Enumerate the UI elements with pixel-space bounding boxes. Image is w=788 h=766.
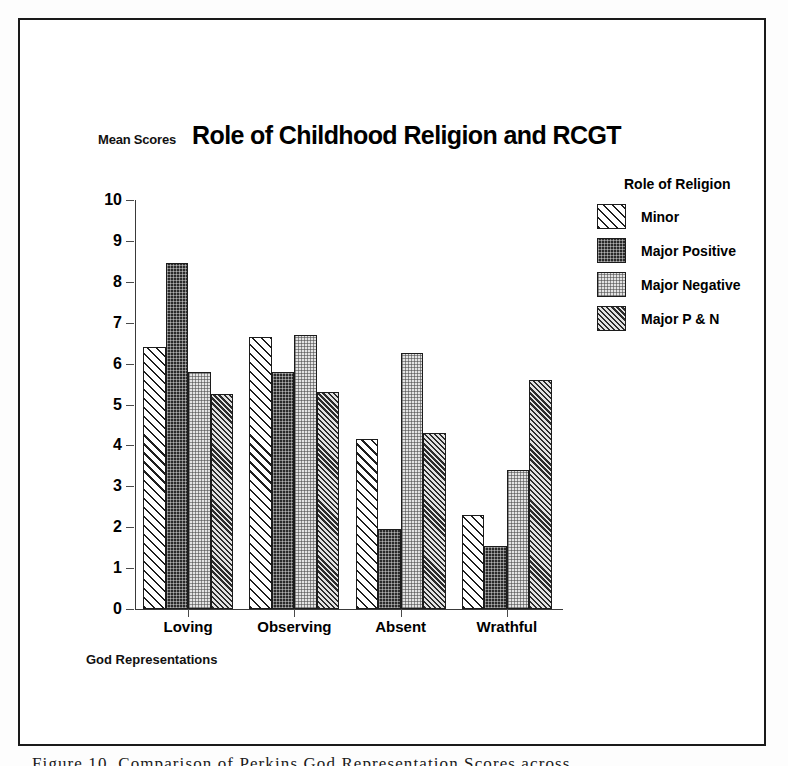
y-tick (126, 200, 134, 201)
x-category-label-loving: Loving (164, 618, 213, 635)
y-tick (126, 527, 134, 528)
x-category-label-wrathful: Wrathful (477, 618, 538, 635)
y-tick-label: 2 (92, 518, 122, 536)
chart-title: Role of Childhood Religion and RCGT (192, 121, 621, 150)
y-tick (126, 568, 134, 569)
figure-caption: Figure 10. Comparison of Perkins God Rep… (32, 754, 752, 766)
bar-absent-major-negative (401, 353, 424, 609)
y-tick-label: 7 (92, 314, 122, 332)
x-tick (401, 609, 402, 617)
y-tick (126, 405, 134, 406)
bar-observing-major-negative (294, 335, 317, 609)
legend: Role of Religion MinorMajor PositiveMajo… (597, 176, 787, 340)
y-tick-label: 5 (92, 396, 122, 414)
plot-area (135, 200, 560, 609)
legend-label: Major Negative (641, 277, 741, 293)
legend-item-minor: Minor (597, 204, 787, 229)
figure-page: Mean Scores Role of Childhood Religion a… (0, 0, 788, 766)
bar-loving-major-negative (188, 372, 211, 609)
legend-swatch-gray-diagonal-hatch (597, 306, 626, 331)
bar-observing-major-positive (272, 372, 295, 609)
legend-items: MinorMajor PositiveMajor NegativeMajor P… (597, 204, 787, 331)
legend-item-major-positive: Major Positive (597, 238, 787, 263)
bar-wrathful-major-p-n (529, 380, 552, 609)
y-tick (126, 445, 134, 446)
bar-wrathful-major-positive (484, 546, 507, 609)
y-tick-label: 4 (92, 436, 122, 454)
x-axis-caption: God Representations (86, 652, 217, 667)
bar-absent-minor (356, 439, 379, 609)
y-tick-label: 6 (92, 355, 122, 373)
x-category-label-absent: Absent (375, 618, 426, 635)
legend-item-major-negative: Major Negative (597, 272, 787, 297)
figure-frame: Mean Scores Role of Childhood Religion a… (18, 18, 766, 746)
y-axis-caption: Mean Scores (98, 132, 176, 147)
bar-observing-major-p-n (317, 392, 340, 609)
bar-observing-minor (249, 337, 272, 609)
y-tick-label: 8 (92, 273, 122, 291)
x-tick (507, 609, 508, 617)
legend-label: Major P & N (641, 311, 719, 327)
y-tick-label: 9 (92, 232, 122, 250)
legend-swatch-diagonal-hatch-white (597, 204, 626, 229)
y-tick-label: 1 (92, 559, 122, 577)
y-tick-label: 3 (92, 477, 122, 495)
y-tick (126, 241, 134, 242)
y-tick (126, 282, 134, 283)
y-tick (126, 323, 134, 324)
y-tick (126, 609, 134, 610)
y-tick (126, 364, 134, 365)
bar-wrathful-minor (462, 515, 485, 609)
x-tick (294, 609, 295, 617)
y-tick (126, 486, 134, 487)
y-tick-label: 0 (92, 600, 122, 618)
bar-loving-minor (143, 347, 166, 609)
legend-label: Minor (641, 209, 679, 225)
y-axis-tick-labels: 012345678910 (92, 200, 122, 610)
bar-absent-major-p-n (423, 433, 446, 609)
x-tick (188, 609, 189, 617)
y-tick-label: 10 (92, 191, 122, 209)
legend-title: Role of Religion (624, 176, 787, 192)
legend-item-major-p-n: Major P & N (597, 306, 787, 331)
bar-loving-major-p-n (211, 394, 234, 609)
bar-loving-major-positive (166, 263, 189, 609)
legend-swatch-light-dotted (597, 272, 626, 297)
bar-wrathful-major-negative (507, 470, 530, 609)
legend-swatch-dark-checker (597, 238, 626, 263)
bar-absent-major-positive (378, 529, 401, 609)
x-category-label-observing: Observing (257, 618, 331, 635)
legend-label: Major Positive (641, 243, 736, 259)
